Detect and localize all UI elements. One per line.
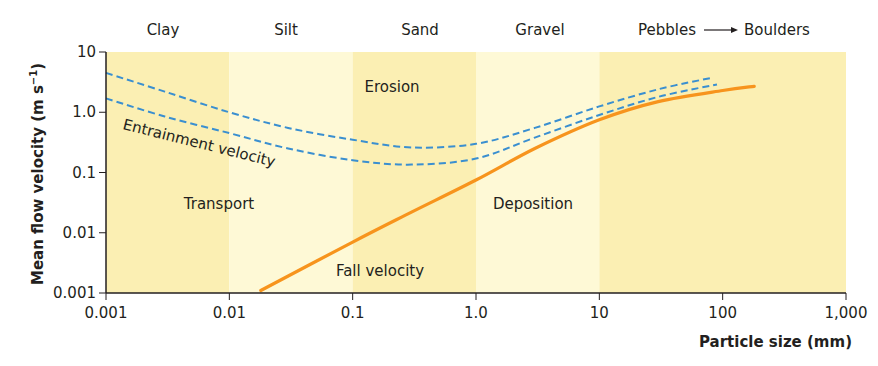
band-clay [106, 52, 229, 293]
x-tick-label: 0.001 [85, 304, 128, 322]
svg-text:Mean flow velocity (m s−1): Mean flow velocity (m s−1) [28, 63, 47, 285]
region-deposition-label: Deposition [493, 195, 573, 213]
y-tick-label: 10 [77, 43, 96, 61]
region-transport-label: Transport [183, 195, 255, 213]
band-silt [229, 52, 352, 293]
category-boulders: Boulders [744, 21, 810, 39]
y-tick-label: 0.1 [72, 164, 96, 182]
y-tick-label: 0.001 [53, 284, 96, 302]
y-axis-title-close: ) [29, 63, 47, 70]
y-tick-label: 0.01 [63, 224, 96, 242]
particle-size-velocity-chart: Clay Silt Sand Gravel Pebbles Boulders 0… [0, 0, 878, 366]
x-tick-label: 1,000 [825, 304, 868, 322]
y-tick-label: 1.0 [72, 103, 96, 121]
x-tick-label: 10 [590, 304, 609, 322]
arrow-right-icon [704, 27, 738, 33]
x-tick-label: 0.01 [213, 304, 246, 322]
band-gravel [476, 52, 599, 293]
y-axis-title-superscript: −1 [28, 70, 39, 85]
x-tick-label: 0.1 [341, 304, 365, 322]
category-silt: Silt [274, 21, 298, 39]
y-axis-title-text: Mean flow velocity (m s [29, 85, 47, 285]
x-tick-label: 100 [708, 304, 737, 322]
region-erosion-label: Erosion [364, 78, 419, 96]
y-axis-title: Mean flow velocity (m s−1) [28, 63, 47, 285]
category-sand: Sand [401, 21, 439, 39]
category-pebbles: Pebbles [638, 21, 696, 39]
x-axis-title: Particle size (mm) [699, 333, 852, 351]
grain-size-category-labels: Clay Silt Sand Gravel Pebbles Boulders [147, 21, 810, 39]
x-tick-label: 1.0 [464, 304, 488, 322]
y-axis-ticks: 101.00.10.010.001 [53, 43, 106, 302]
x-axis-ticks: 0.0010.010.11.0101001,000 [85, 293, 868, 322]
category-gravel: Gravel [515, 21, 564, 39]
category-clay: Clay [147, 21, 180, 39]
band-pebbles [599, 52, 846, 293]
fall-velocity-label: Fall velocity [336, 262, 424, 280]
